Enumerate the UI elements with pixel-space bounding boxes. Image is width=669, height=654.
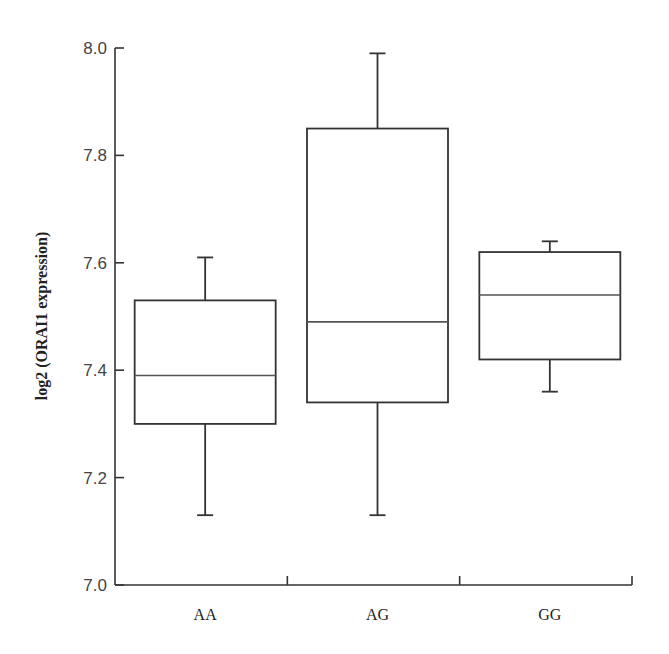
y-tick-label: 7.6 <box>83 254 107 273</box>
y-tick-label: 7.0 <box>83 576 107 595</box>
x-category-label: AA <box>194 606 218 623</box>
box-plot-chart: 7.07.27.47.67.88.0 AAAGGG log2 (ORAI1 ex… <box>0 0 669 654</box>
x-category-label: GG <box>538 606 562 623</box>
box-aa <box>135 257 276 515</box>
y-tick-label: 7.8 <box>83 146 107 165</box>
x-category-label: AG <box>366 606 390 623</box>
iqr-box <box>479 252 620 359</box>
iqr-box <box>135 300 276 424</box>
box-ag <box>307 53 448 515</box>
y-tick-label: 8.0 <box>83 39 107 58</box>
y-tick-label: 7.2 <box>83 469 107 488</box>
boxes <box>135 53 621 515</box>
y-axis-title: log2 (ORAI1 expression) <box>33 232 51 401</box>
iqr-box <box>307 129 448 403</box>
x-axis: AAAGGG <box>115 576 632 623</box>
box-gg <box>479 241 620 391</box>
y-axis: 7.07.27.47.67.88.0 <box>83 39 124 595</box>
y-tick-label: 7.4 <box>83 361 107 380</box>
